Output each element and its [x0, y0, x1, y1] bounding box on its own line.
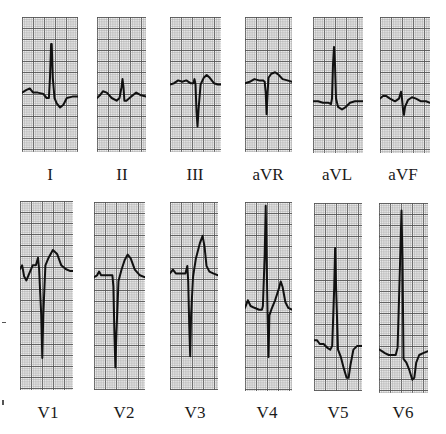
ecg-trace-V1: [20, 250, 73, 358]
ecg-strip-V5: [314, 203, 362, 391]
ecg-strip-V3: [170, 202, 218, 390]
lead-label-V4: V4: [237, 404, 297, 422]
lead-label-I: I: [20, 166, 80, 184]
ecg-grid-V5: [314, 203, 362, 391]
ecg-trace-I: [22, 44, 78, 108]
lead-label-II: II: [92, 166, 152, 184]
lead-label-III: III: [165, 166, 225, 184]
ecg-strip-V1: [20, 201, 73, 390]
scan-artifact-dash: [2, 322, 6, 323]
ecg-strip-aVR: [245, 17, 292, 152]
ecg-grid-II: [97, 17, 146, 152]
ecg-grid-V3: [170, 202, 218, 390]
lead-label-aVF: aVF: [373, 166, 433, 184]
lead-label-V2: V2: [94, 404, 154, 422]
lead-label-V1: V1: [18, 404, 78, 422]
ecg-grid-V4: [245, 202, 292, 391]
ecg-grid-aVL: [313, 17, 363, 153]
ecg-grid-aVR: [245, 17, 292, 152]
ecg-grid-V1: [20, 201, 73, 390]
ecg-trace-V2: [94, 255, 145, 368]
lead-label-V5: V5: [308, 404, 368, 422]
ecg-grid-V6: [379, 203, 428, 393]
ecg-strip-V2: [94, 202, 145, 390]
lead-label-V3: V3: [165, 404, 225, 422]
ecg-strip-V6: [379, 203, 428, 393]
lead-label-aVL: aVL: [307, 166, 367, 184]
ecg-strip-I: [22, 17, 78, 152]
ecg-grid-III: [170, 17, 221, 152]
ecg-strip-V4: [245, 202, 292, 391]
ecg-grid-aVF: [380, 17, 430, 153]
ecg-strip-III: [170, 17, 221, 152]
ecg-strip-aVL: [313, 17, 363, 153]
ecg-strip-aVF: [380, 17, 430, 153]
lead-label-aVR: aVR: [238, 166, 298, 184]
ecg-grid-I: [22, 17, 78, 152]
lead-label-V6: V6: [373, 404, 433, 422]
scan-artifact-bar: [2, 400, 4, 405]
ecg-strip-II: [97, 17, 146, 152]
ecg-grid-V2: [94, 202, 145, 390]
